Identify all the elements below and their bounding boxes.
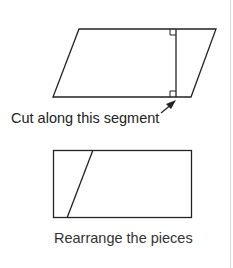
diagram-canvas <box>0 0 233 268</box>
rectangle <box>54 150 192 218</box>
right-border <box>230 0 231 268</box>
arrow-icon <box>161 100 176 113</box>
rearrange-label: Rearrange the pieces <box>54 230 193 246</box>
right-angle-mark-top <box>170 29 176 35</box>
right-angle-mark-bottom <box>170 91 176 97</box>
parallelogram <box>53 29 216 97</box>
cut-label: Cut along this segment <box>11 110 159 126</box>
